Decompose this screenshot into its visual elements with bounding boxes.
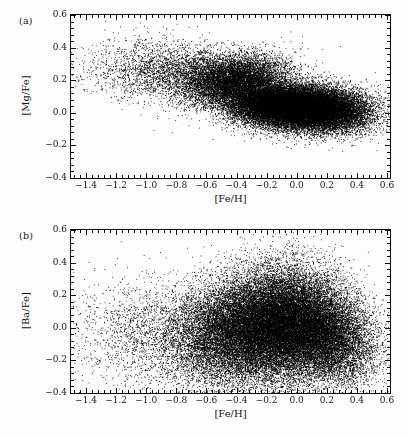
- axis-tick: [71, 171, 74, 172]
- axis-tick: [122, 390, 123, 393]
- panel-b-tag: (b): [19, 230, 33, 241]
- axis-tick: [385, 328, 390, 329]
- axis-tick: [71, 230, 76, 231]
- axis-tick: [71, 54, 74, 55]
- axis-tick: [140, 15, 141, 18]
- axis-tick: [303, 15, 304, 18]
- axis-tick: [200, 230, 201, 233]
- axis-tick: [351, 175, 352, 178]
- axis-tick: [176, 173, 177, 178]
- axis-tick: [279, 175, 280, 178]
- axis-tick: [255, 15, 256, 18]
- axis-tick: [243, 230, 244, 233]
- axis-tick: [71, 28, 74, 29]
- axis-tick: [224, 390, 225, 393]
- axis-tick: [285, 15, 286, 18]
- axis-tick: [134, 390, 135, 393]
- axis-tick: [273, 390, 274, 393]
- axis-tick: [243, 175, 244, 178]
- axis-tick: [71, 289, 74, 290]
- axis-tick: [387, 28, 390, 29]
- axis-tick: [387, 74, 390, 75]
- axis-tick: [381, 390, 382, 393]
- axis-tick: [327, 173, 328, 178]
- axis-tick: [387, 276, 390, 277]
- axis-tick: [327, 230, 328, 235]
- axis-tick: [261, 230, 262, 233]
- axis-tick: [387, 119, 390, 120]
- axis-tick: [321, 175, 322, 178]
- axis-tick: [267, 230, 268, 235]
- axis-tick: [369, 15, 370, 18]
- axis-tick: [182, 175, 183, 178]
- panel-a-tag: (a): [19, 15, 33, 26]
- axis-tick: [315, 390, 316, 393]
- axis-tick: [315, 15, 316, 18]
- axis-tick: [321, 15, 322, 18]
- axis-tick: [231, 15, 232, 18]
- axis-tick: [387, 321, 390, 322]
- y-tick-label: 0.4: [39, 257, 67, 267]
- axis-tick: [110, 230, 111, 233]
- axis-tick: [134, 175, 135, 178]
- axis-tick: [71, 15, 76, 16]
- axis-tick: [194, 230, 195, 233]
- axis-tick: [375, 390, 376, 393]
- axis-tick: [387, 289, 390, 290]
- axis-tick: [116, 388, 117, 393]
- axis-tick: [164, 390, 165, 393]
- axis-tick: [188, 175, 189, 178]
- axis-tick: [212, 390, 213, 393]
- axis-tick: [188, 230, 189, 233]
- axis-tick: [71, 386, 74, 387]
- axis-tick: [71, 360, 76, 361]
- axis-tick: [385, 360, 390, 361]
- axis-tick: [369, 175, 370, 178]
- axis-tick: [369, 390, 370, 393]
- axis-tick: [170, 175, 171, 178]
- axis-tick: [333, 15, 334, 18]
- axis-tick: [261, 390, 262, 393]
- axis-tick: [387, 243, 390, 244]
- axis-tick: [387, 35, 390, 36]
- axis-tick: [297, 230, 298, 235]
- axis-tick: [291, 15, 292, 18]
- axis-tick: [140, 175, 141, 178]
- axis-tick: [71, 119, 74, 120]
- axis-tick: [387, 367, 390, 368]
- axis-tick: [249, 390, 250, 393]
- axis-tick: [71, 158, 74, 159]
- axis-tick: [309, 175, 310, 178]
- axis-tick: [170, 390, 171, 393]
- y-tick-label: 0.0: [39, 107, 67, 117]
- axis-tick: [200, 15, 201, 18]
- axis-tick: [387, 269, 390, 270]
- axis-tick: [164, 15, 165, 18]
- axis-tick: [218, 230, 219, 233]
- axis-tick: [206, 15, 207, 20]
- axis-tick: [237, 173, 238, 178]
- axis-tick: [80, 175, 81, 178]
- axis-tick: [387, 308, 390, 309]
- axis-tick: [339, 175, 340, 178]
- axis-tick: [385, 15, 390, 16]
- axis-tick: [92, 175, 93, 178]
- axis-tick: [291, 175, 292, 178]
- axis-tick: [267, 15, 268, 20]
- axis-tick: [71, 282, 74, 283]
- axis-tick: [134, 15, 135, 18]
- axis-tick: [385, 178, 390, 179]
- axis-tick: [71, 87, 74, 88]
- axis-tick: [71, 354, 74, 355]
- axis-tick: [104, 230, 105, 233]
- axis-tick: [381, 175, 382, 178]
- x-tick-label: 0.6: [367, 395, 407, 405]
- axis-tick: [387, 126, 390, 127]
- axis-tick: [291, 230, 292, 233]
- axis-tick: [321, 230, 322, 233]
- axis-tick: [333, 390, 334, 393]
- axis-tick: [267, 173, 268, 178]
- axis-tick: [273, 175, 274, 178]
- axis-tick: [158, 230, 159, 233]
- axis-tick: [128, 15, 129, 18]
